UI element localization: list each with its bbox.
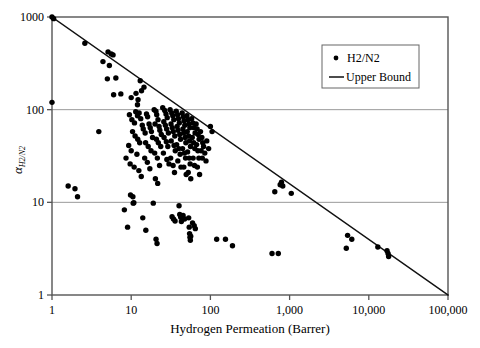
- data-point: [141, 84, 146, 89]
- y-axis-ticks: [47, 17, 52, 295]
- data-point: [134, 152, 139, 157]
- y-axis-title: αH2/N2: [10, 146, 27, 174]
- data-point: [139, 174, 144, 179]
- data-point: [82, 41, 87, 46]
- data-point: [132, 120, 137, 125]
- data-point: [72, 186, 77, 191]
- data-point: [169, 138, 174, 143]
- legend-label-0: H2/N2: [347, 51, 380, 65]
- data-point: [143, 228, 148, 233]
- x-axis-title: Hydrogen Permeation (Barrer): [170, 321, 330, 336]
- data-point: [202, 150, 207, 155]
- data-point: [136, 168, 141, 173]
- y-tick-label-1: 10: [32, 195, 44, 209]
- data-point: [138, 78, 143, 83]
- data-point: [105, 76, 110, 81]
- data-point: [170, 163, 175, 168]
- data-point: [155, 181, 160, 186]
- data-point: [100, 59, 105, 64]
- data-point: [197, 172, 202, 177]
- data-point: [165, 115, 170, 120]
- data-point: [75, 194, 80, 199]
- data-point: [122, 207, 127, 212]
- data-point: [127, 112, 132, 117]
- data-point: [107, 63, 112, 68]
- data-point: [198, 129, 203, 134]
- data-point: [188, 176, 193, 181]
- data-point: [129, 95, 134, 100]
- data-point: [153, 176, 158, 181]
- chart-svg: 1101001,00010,000100,000 1101001000 Hydr…: [0, 0, 480, 348]
- x-tick-label-1: 10: [125, 303, 137, 317]
- data-point: [133, 91, 138, 96]
- data-point: [96, 129, 101, 134]
- data-point: [145, 114, 150, 119]
- data-point: [149, 129, 154, 134]
- x-tick-label-5: 100,000: [429, 303, 468, 317]
- data-point: [161, 150, 166, 155]
- data-point: [129, 148, 134, 153]
- data-point: [203, 158, 208, 163]
- data-point: [187, 224, 192, 229]
- data-point: [206, 146, 211, 151]
- data-point: [157, 163, 162, 168]
- data-point: [201, 144, 206, 149]
- data-point: [344, 245, 349, 250]
- data-point: [126, 143, 131, 148]
- data-point: [166, 130, 171, 135]
- data-point: [136, 110, 141, 115]
- x-tick-label-4: 10,000: [352, 303, 385, 317]
- data-point: [142, 130, 147, 135]
- data-point: [123, 155, 128, 160]
- data-point: [375, 244, 380, 249]
- data-point: [51, 16, 56, 21]
- data-point: [111, 92, 116, 97]
- data-point: [194, 142, 199, 147]
- data-point: [181, 164, 186, 169]
- data-point: [110, 52, 115, 57]
- data-point: [151, 200, 156, 205]
- data-point: [209, 129, 214, 134]
- data-point: [349, 237, 354, 242]
- x-axis-tick-labels: 1101001,00010,000100,000: [49, 303, 468, 317]
- legend-marker-dot: [334, 56, 339, 61]
- data-point: [190, 155, 195, 160]
- data-point: [135, 97, 140, 102]
- svg-text:αH2/N2: αH2/N2: [10, 146, 27, 174]
- data-point: [145, 160, 150, 165]
- data-point: [186, 215, 191, 220]
- data-point: [188, 234, 193, 239]
- data-point: [223, 237, 228, 242]
- data-point: [193, 226, 198, 231]
- data-point: [152, 150, 157, 155]
- data-point: [172, 133, 177, 138]
- data-point: [199, 135, 204, 140]
- data-point: [172, 170, 177, 175]
- data-point: [118, 91, 123, 96]
- data-point: [147, 166, 152, 171]
- data-point: [154, 112, 159, 117]
- data-point: [172, 218, 177, 223]
- data-point: [276, 251, 281, 256]
- data-point: [193, 121, 198, 126]
- data-point: [140, 215, 145, 220]
- data-point: [175, 158, 180, 163]
- data-point: [386, 254, 391, 259]
- data-point: [138, 116, 143, 121]
- data-point: [178, 137, 183, 142]
- data-point: [131, 164, 136, 169]
- svg-text:Hydrogen Permeation (Barrer): Hydrogen Permeation (Barrer): [170, 321, 330, 336]
- data-point: [185, 149, 190, 154]
- data-point: [164, 139, 169, 144]
- data-point: [208, 124, 213, 129]
- x-tick-label-2: 100: [201, 303, 219, 317]
- data-point: [280, 183, 285, 188]
- data-point: [289, 191, 294, 196]
- x-axis-ticks: [52, 295, 448, 300]
- data-point: [204, 138, 209, 143]
- data-point: [65, 183, 70, 188]
- y-tick-label-2: 100: [26, 103, 44, 117]
- data-point: [195, 164, 200, 169]
- data-point: [137, 140, 142, 145]
- legend: H2/N2 Upper Bound: [322, 45, 419, 88]
